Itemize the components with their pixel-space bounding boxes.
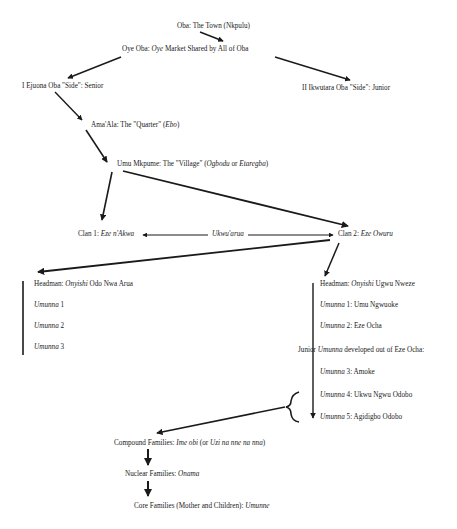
relation-label: Ukwu'arua bbox=[212, 230, 244, 239]
right-umunna-1: Umunna 1: Umu Ngwuoke bbox=[320, 301, 398, 310]
right-headman: Headman: Onyishi Ugwu Nweze bbox=[320, 280, 415, 289]
right-umunna-3: Umunna 3: Amoke bbox=[320, 368, 375, 377]
node-core-families: Core Families (Mother and Children): Umu… bbox=[134, 502, 270, 511]
left-umunna-1: Umunna 1 bbox=[34, 301, 64, 310]
node-town: Oba: The Town (Nkpulu) bbox=[177, 22, 250, 31]
node-nuclear-families: Nuclear Families: Onama bbox=[125, 470, 199, 479]
node-clan-1: Clan 1: Eze n'Akwa bbox=[78, 230, 134, 239]
right-umunna-5: Umunna 5: Agidigbo Odobo bbox=[320, 413, 402, 422]
left-umunna-3: Umunna 3 bbox=[34, 343, 64, 352]
node-village: Umu Mkpume: The "Village" (Ogbodu or Eta… bbox=[117, 160, 268, 169]
node-side-junior: II Ikwutara Oba "Side": Junior bbox=[302, 84, 390, 93]
right-umunna-2: Umunna 2: Eze Ocha bbox=[320, 322, 382, 331]
right-umunna-4: Umunna 4: Ukwu Ngwu Odobo bbox=[320, 391, 412, 400]
left-umunna-2: Umunna 2 bbox=[34, 322, 64, 331]
left-headman: Headman: Onyishi Odo Nwa Arua bbox=[34, 280, 133, 289]
node-compound-families: Compound Families: Ime obi (or Uzi na nn… bbox=[114, 439, 265, 448]
connector-lines bbox=[0, 0, 457, 529]
node-quarter: Ama'Ala: The "Quarter" (Ebo) bbox=[91, 121, 179, 130]
node-market: Oye Oba: Oye Market Shared by All of Oba bbox=[122, 45, 249, 54]
node-side-senior: I Ejuona Oba "Side": Senior bbox=[22, 82, 103, 91]
junior-umunna-note: Junior Umunna developed out of Eze Ocha: bbox=[298, 346, 424, 355]
node-clan-2: Clan 2: Eze Owuru bbox=[338, 230, 393, 239]
